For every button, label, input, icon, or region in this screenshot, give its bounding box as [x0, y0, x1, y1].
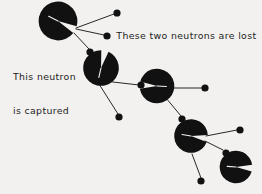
- neutron-lost-4: [201, 84, 208, 91]
- neutron-captured-3: [178, 115, 185, 122]
- neutron-lost-6: [197, 177, 204, 184]
- label-lost-neutrons-text: These two neutrons are lost: [116, 30, 256, 41]
- label-captured-neutron: This neutron is captured: [13, 49, 76, 139]
- neutron-lost-5: [236, 126, 243, 133]
- label-captured-neutron-line1: This neutron: [13, 71, 76, 82]
- neutron-captured-2: [137, 81, 144, 88]
- neutron-captured-4: [222, 149, 229, 156]
- nucleus-2: [83, 50, 119, 86]
- nucleus-5-fission-split: [227, 166, 236, 167]
- neutron-captured-1: [86, 48, 93, 55]
- neutron-lost-3: [115, 113, 122, 120]
- label-captured-neutron-line2: is captured: [13, 105, 76, 116]
- fission-chain-reaction-figure: These two neutrons are lost This neutron…: [0, 0, 262, 194]
- neutron-lost-1: [113, 9, 120, 16]
- label-lost-neutrons: These two neutrons are lost: [103, 19, 256, 53]
- nucleus-1: [39, 2, 78, 41]
